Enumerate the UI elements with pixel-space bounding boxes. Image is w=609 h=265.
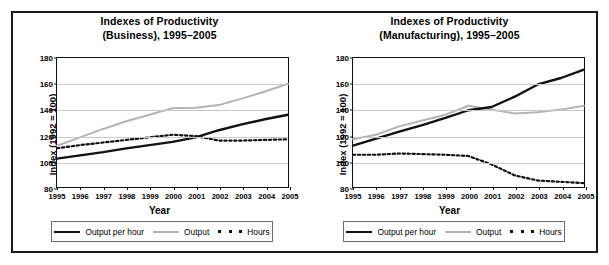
chart-title-business: Indexes of Productivity (Business), 1995… [13, 15, 306, 42]
legend-item[interactable]: Output [153, 227, 209, 237]
y-tick-mark [54, 110, 57, 111]
x-tick-label: 2002 [508, 192, 525, 201]
x-tick-mark [376, 187, 377, 190]
x-tick-label: 2004 [258, 192, 275, 201]
chart-title-line1: Indexes of Productivity [101, 15, 219, 27]
chart-title-line2: (Manufacturing), 1995–2005 [303, 29, 596, 43]
x-tick-label: 1996 [72, 192, 89, 201]
legend-label: Output [476, 227, 501, 237]
y-tick-label: 120 [336, 132, 349, 141]
x-tick-mark [400, 187, 401, 190]
x-tick-label: 2001 [188, 192, 205, 201]
y-tick-mark [54, 84, 57, 85]
chart-title-manufacturing: Indexes of Productivity (Manufacturing),… [303, 15, 596, 42]
x-tick-mark [423, 187, 424, 190]
y-tick-mark [54, 58, 57, 59]
chart-panel-business: Indexes of Productivity (Business), 1995… [13, 13, 306, 251]
gridline [353, 84, 584, 85]
x-tick-mark [470, 187, 471, 190]
gridline [353, 163, 584, 164]
legend-swatch-dotted-icon [218, 228, 242, 236]
x-tick-label: 1998 [414, 192, 431, 201]
x-tick-label: 1998 [118, 192, 135, 201]
x-tick-mark [127, 187, 128, 190]
y-tick-mark [54, 136, 57, 137]
legend-swatch-dotted-icon [510, 228, 534, 236]
x-tick-mark [220, 187, 221, 190]
x-tick-mark [493, 187, 494, 190]
x-tick-label: 2002 [212, 192, 229, 201]
legend-swatch-solid-gray-icon [153, 228, 179, 236]
x-tick-mark [539, 187, 540, 190]
y-tick-mark [350, 58, 353, 59]
y-tick-label: 140 [40, 106, 53, 115]
series-line-output-per-hour [353, 70, 584, 146]
series-layer-business [57, 58, 288, 187]
x-tick-label: 2001 [484, 192, 501, 201]
legend-label: Output per hour [377, 227, 436, 237]
gridline [57, 163, 288, 164]
legend-item[interactable]: Output [445, 227, 501, 237]
x-tick-label: 2005 [578, 192, 595, 201]
x-tick-mark [57, 187, 58, 190]
chart-title-line2: (Business), 1995–2005 [13, 29, 306, 43]
x-tick-label: 2003 [531, 192, 548, 201]
x-tick-label: 2004 [554, 192, 571, 201]
x-tick-label: 2000 [461, 192, 478, 201]
x-tick-label: 1997 [391, 192, 408, 201]
x-tick-mark [353, 187, 354, 190]
chart-title-line1: Indexes of Productivity [391, 15, 509, 27]
x-tick-mark [586, 187, 587, 190]
legend-label: Hours [247, 227, 269, 237]
legend-label: Output [184, 227, 209, 237]
legend-item[interactable]: Hours [218, 227, 269, 237]
y-tick-label: 100 [40, 158, 53, 167]
y-tick-label: 160 [40, 80, 53, 89]
legend-business: Output per hourOutputHours [51, 221, 273, 242]
x-tick-label: 2003 [235, 192, 252, 201]
x-tick-mark [446, 187, 447, 190]
y-tick-label: 100 [336, 158, 349, 167]
y-tick-mark [350, 162, 353, 163]
gridline [353, 137, 584, 138]
x-tick-mark [104, 187, 105, 190]
x-tick-label: 2000 [165, 192, 182, 201]
x-tick-label: 1999 [438, 192, 455, 201]
x-tick-mark [150, 187, 151, 190]
y-tick-label: 140 [336, 106, 349, 115]
x-axis-label-manufacturing: Year [303, 205, 596, 216]
legend-label: Hours [539, 227, 561, 237]
y-tick-mark [54, 162, 57, 163]
x-tick-mark [516, 187, 517, 190]
legend-swatch-solid-gray-icon [445, 228, 471, 236]
y-tick-label: 120 [40, 132, 53, 141]
y-tick-mark [350, 84, 353, 85]
y-tick-mark [350, 136, 353, 137]
legend-item[interactable]: Hours [510, 227, 561, 237]
x-tick-mark [243, 187, 244, 190]
x-tick-mark [80, 187, 81, 190]
x-tick-label: 1995 [49, 192, 66, 201]
x-tick-label: 1999 [142, 192, 159, 201]
x-tick-mark [174, 187, 175, 190]
x-tick-mark [290, 187, 291, 190]
y-tick-label: 160 [336, 80, 349, 89]
legend-swatch-solid-black-icon [54, 228, 80, 236]
plot-area-business: 8010012014016018019951996199719981999200… [56, 57, 289, 188]
y-tick-label: 180 [336, 54, 349, 63]
x-tick-label: 1996 [368, 192, 385, 201]
gridline [57, 137, 288, 138]
y-tick-mark [350, 110, 353, 111]
gridline [353, 110, 584, 111]
gridline [57, 110, 288, 111]
legend-item[interactable]: Output per hour [346, 227, 436, 237]
legend-item[interactable]: Output per hour [54, 227, 144, 237]
figure-page: Indexes of Productivity (Business), 1995… [0, 0, 609, 265]
series-layer-manufacturing [353, 58, 584, 187]
legend-manufacturing: Output per hourOutputHours [343, 221, 565, 242]
x-axis-label-business: Year [13, 205, 306, 216]
series-line-hours [353, 153, 584, 183]
y-tick-label: 180 [40, 54, 53, 63]
legend-swatch-solid-black-icon [346, 228, 372, 236]
x-tick-label: 1995 [345, 192, 362, 201]
